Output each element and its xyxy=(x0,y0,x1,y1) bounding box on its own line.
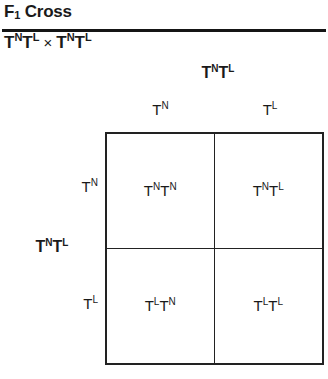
punnett-square-grid: TNTN TNTL TLTN TLTL xyxy=(105,132,324,365)
column-header-gamete-2: TL xyxy=(216,101,324,118)
offspring-genotype: TLTL xyxy=(254,297,283,314)
title-subscript: 1 xyxy=(14,9,20,21)
side-parent-genotype-label: TNTL xyxy=(14,238,90,256)
column-header-gamete-1: TN xyxy=(105,101,216,118)
header-divider xyxy=(2,29,326,32)
row-header-gamete-1: TN xyxy=(62,178,98,195)
page-title: F1 Cross xyxy=(4,2,72,22)
punnett-cell: TLTN xyxy=(107,249,215,364)
offspring-genotype: TNTL xyxy=(253,182,284,199)
cross-expression: TNTL×TNTL xyxy=(4,33,92,53)
offspring-genotype: TLTN xyxy=(145,297,176,314)
row-header-gamete-2: TL xyxy=(62,295,98,312)
offspring-genotype: TNTN xyxy=(144,182,177,199)
punnett-cell: TLTL xyxy=(215,249,323,364)
punnett-cell: TNTL xyxy=(215,134,323,249)
parent1-genotype: TNTL xyxy=(4,33,39,52)
title-prefix: F xyxy=(4,2,14,21)
title-suffix: Cross xyxy=(20,2,72,21)
top-parent-genotype-label: TNTL xyxy=(0,64,328,82)
parent2-genotype: TNTL xyxy=(56,33,91,52)
punnett-cell: TNTN xyxy=(107,134,215,249)
cross-operator: × xyxy=(39,34,56,51)
